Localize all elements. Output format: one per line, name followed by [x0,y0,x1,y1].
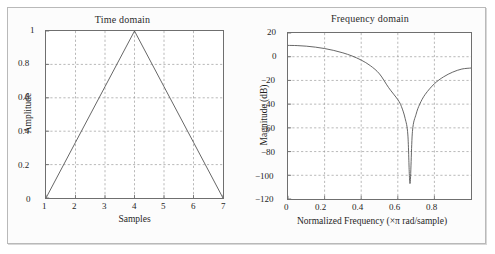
freq-xtick-0: 0 [284,202,289,212]
frequency-domain-plot-svg [288,33,471,199]
frequency-domain-title: Frequency domain [245,13,495,24]
time-xtick-4: 4 [132,201,137,211]
freq-ytick-0: 0 [272,51,277,61]
time-xtick-7: 7 [221,201,226,211]
freq-ytick-m120: −120 [255,194,274,204]
time-ytick-1: 1 [30,25,35,35]
time-xtick-6: 6 [191,201,196,211]
frequency-domain-plot-area [287,32,472,200]
freq-ytick-m40: −40 [261,99,275,109]
frequency-domain-x-axis-label: Normalized Frequency (×π rad/sample) [257,216,487,226]
time-domain-title: Time domain [0,14,245,25]
time-ytick-0.4: 0.4 [18,126,29,136]
freq-ytick-m80: −80 [261,147,275,157]
freq-xtick-0.4: 0.4 [352,202,363,212]
time-xtick-5: 5 [161,201,166,211]
freq-xtick-0.2: 0.2 [315,202,326,212]
time-ytick-0: 0 [26,194,31,204]
time-domain-y-axis-label: Amplitude [23,73,33,153]
figure-root: Time domain Amplitude 0 0.2 0.4 0.6 0.8 … [0,0,495,254]
time-ytick-0.2: 0.2 [18,160,29,170]
time-ytick-0.8: 0.8 [18,58,29,68]
freq-ytick-m60: −60 [261,123,275,133]
time-domain-x-axis-label: Samples [45,214,224,224]
freq-ytick-m100: −100 [255,171,274,181]
freq-xtick-0.6: 0.6 [389,202,400,212]
time-xtick-3: 3 [102,201,107,211]
time-domain-panel: Time domain Amplitude 0 0.2 0.4 0.6 0.8 … [0,0,245,254]
time-domain-plot-svg [46,31,223,198]
time-xtick-2: 2 [72,201,77,211]
freq-ytick-m20: −20 [261,75,275,85]
time-domain-plot-area [45,30,224,199]
time-xtick-1: 1 [42,201,47,211]
frequency-domain-panel: Frequency domain Magnitude (dB) 20 0 −20… [245,0,495,254]
time-ytick-0.6: 0.6 [18,92,29,102]
freq-xtick-0.8: 0.8 [426,202,437,212]
freq-ytick-20: 20 [267,27,276,37]
